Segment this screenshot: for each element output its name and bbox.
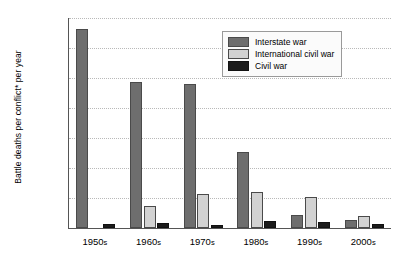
bar — [372, 224, 384, 229]
y-axis-title: Battle deaths per conflict* per year — [13, 7, 23, 227]
bar — [237, 152, 249, 228]
bar — [211, 225, 223, 228]
bar-group — [69, 18, 123, 228]
bar-group — [123, 18, 177, 228]
x-axis-tick-label: 1950s — [68, 236, 122, 247]
bar — [305, 197, 317, 228]
bar — [251, 192, 263, 228]
bar — [103, 224, 115, 228]
legend-item: Interstate war — [228, 36, 334, 48]
bar — [157, 223, 169, 228]
legend-label-civil-war: Civil war — [255, 61, 287, 71]
legend-label-interstate-war: Interstate war — [255, 37, 307, 47]
x-axis-tick-label: 1970s — [175, 236, 229, 247]
x-axis-tick-label: 1980s — [229, 236, 283, 247]
legend-swatch-interstate-war — [228, 37, 249, 47]
x-axis-labels: 1950s1960s1970s1980s1990s2000s — [68, 236, 390, 247]
legend-item: International civil war — [228, 48, 334, 60]
bar — [345, 220, 357, 228]
bar — [264, 221, 276, 228]
battle-deaths-bar-chart: Battle deaths per conflict* per year 010… — [0, 0, 403, 268]
bar — [358, 216, 370, 228]
bar-group — [337, 18, 391, 228]
legend: Interstate war International civil war C… — [222, 31, 342, 77]
legend-swatch-civil-war — [228, 61, 249, 71]
bar — [197, 194, 209, 228]
x-axis-tick-label: 1990s — [283, 236, 337, 247]
x-axis-tick-label: 1960s — [122, 236, 176, 247]
x-axis-tick-label: 2000s — [336, 236, 390, 247]
bar — [130, 82, 142, 228]
bar — [144, 206, 156, 228]
legend-swatch-international-civil-war — [228, 49, 249, 59]
bar — [318, 222, 330, 228]
legend-item: Civil war — [228, 60, 334, 72]
legend-label-international-civil-war: International civil war — [255, 49, 334, 59]
bar — [76, 29, 88, 229]
bar — [291, 215, 303, 228]
bar — [184, 84, 196, 228]
